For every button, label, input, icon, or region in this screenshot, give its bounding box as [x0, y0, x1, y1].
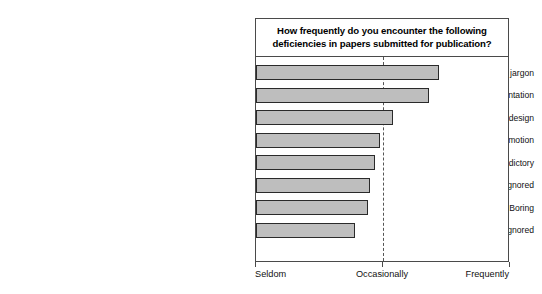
bar-row — [256, 223, 355, 238]
x-axis-tick-label: Frequently — [466, 269, 509, 279]
bar — [256, 223, 355, 238]
bar-row — [256, 65, 439, 80]
bar — [256, 155, 375, 170]
bar-row — [256, 200, 368, 215]
bar-row — [256, 133, 380, 148]
chart-title-box: How frequently do you encounter the foll… — [255, 18, 509, 57]
x-axis-tick — [255, 262, 256, 267]
bar — [256, 65, 439, 80]
x-axis-tick-label: Seldom — [255, 269, 286, 279]
bar — [256, 110, 393, 125]
bar-row — [256, 88, 429, 103]
bar — [256, 133, 380, 148]
plot-area — [255, 57, 509, 262]
x-axis-tick — [509, 262, 510, 267]
bar-chart-figure: How frequently do you encounter the foll… — [0, 0, 542, 294]
bar — [256, 178, 370, 193]
x-axis-tick-label: Occasionally — [356, 269, 408, 279]
chart-title: How frequently do you encounter the foll… — [256, 25, 508, 51]
bar — [256, 88, 429, 103]
bar-row — [256, 155, 375, 170]
bar-row — [256, 178, 370, 193]
bar — [256, 200, 368, 215]
x-axis-tick — [382, 262, 383, 267]
bar-row — [256, 110, 393, 125]
